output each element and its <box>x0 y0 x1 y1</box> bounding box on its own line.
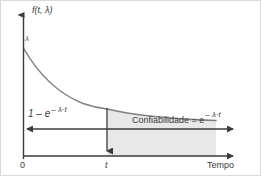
reliability-formula-base: Confiabilidade = e <box>132 115 204 125</box>
reliability-formula: Confiabilidade = e– λ·t <box>132 113 220 125</box>
unreliability-formula-base: 1 – e <box>28 108 50 119</box>
reliability-diagram: f(t, λ) λ 1 – e– λ·t Confiabilidade = e–… <box>0 0 261 176</box>
unreliability-formula-exponent: – λ·t <box>51 105 67 114</box>
y-axis-title: f(t, λ) <box>32 6 52 15</box>
x-axis-t-label: t <box>105 161 108 170</box>
lambda-intercept-label: λ <box>25 35 29 43</box>
diagram-canvas <box>1 1 261 176</box>
x-axis-origin-label: 0 <box>20 161 25 170</box>
x-axis-title: Tempo <box>207 161 234 170</box>
reliability-formula-exponent: – λ·t <box>205 110 221 119</box>
unreliability-formula: 1 – e– λ·t <box>28 107 66 119</box>
